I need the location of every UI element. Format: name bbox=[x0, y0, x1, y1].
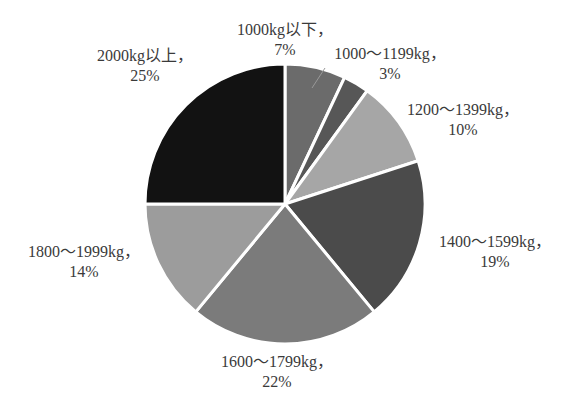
label-name: 1000kg以下， bbox=[230, 20, 340, 40]
label-pct: 25% bbox=[85, 66, 205, 86]
label-1200-1399kg: 1200～1399kg， 10% bbox=[398, 100, 528, 140]
pie-slices bbox=[145, 64, 425, 344]
label-1000kg-below: 1000kg以下， 7% bbox=[230, 20, 340, 60]
label-pct: 3% bbox=[325, 64, 455, 84]
label-1600-1799kg: 1600～1799kg， 22% bbox=[212, 352, 342, 392]
label-name: 1800～1999kg， bbox=[14, 242, 154, 262]
label-pct: 19% bbox=[430, 252, 560, 272]
label-name: 2000kg以上， bbox=[85, 46, 205, 66]
label-1400-1599kg: 1400～1599kg， 19% bbox=[430, 232, 560, 272]
label-name: 1400～1599kg， bbox=[430, 232, 560, 252]
label-pct: 14% bbox=[14, 262, 154, 282]
label-name: 1200～1399kg， bbox=[398, 100, 528, 120]
label-pct: 10% bbox=[398, 120, 528, 140]
label-2000kg-above: 2000kg以上， 25% bbox=[85, 46, 205, 86]
label-name: 1000～1199kg， bbox=[325, 44, 455, 64]
label-1800-1999kg: 1800～1999kg， 14% bbox=[14, 242, 154, 282]
label-1000-1199kg: 1000～1199kg， 3% bbox=[325, 44, 455, 84]
label-pct: 7% bbox=[230, 40, 340, 60]
label-pct: 22% bbox=[212, 372, 342, 392]
label-name: 1600～1799kg， bbox=[212, 352, 342, 372]
